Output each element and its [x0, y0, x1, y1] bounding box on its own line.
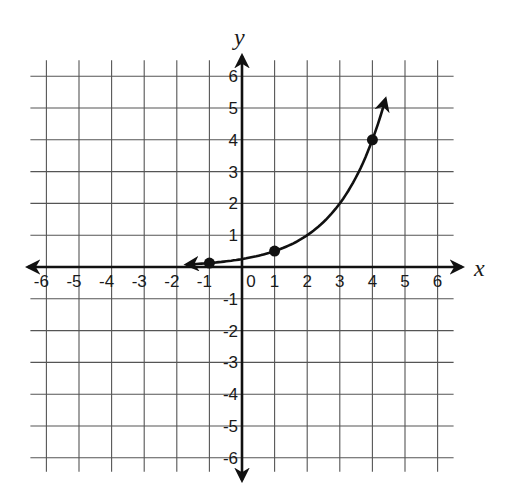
x-tick-label: 2	[302, 272, 311, 291]
data-point	[269, 246, 280, 257]
x-tick-label: -1	[197, 272, 212, 291]
function-curve	[187, 99, 386, 264]
x-tick-label: -3	[132, 272, 147, 291]
y-tick-label: 2	[229, 194, 238, 213]
x-tick-label: -4	[99, 272, 114, 291]
x-tick-label: -6	[34, 272, 49, 291]
x-tick-label: 5	[400, 272, 409, 291]
x-tick-label: -2	[164, 272, 179, 291]
x-tick-label: 1	[270, 272, 279, 291]
curve-path	[187, 99, 386, 264]
y-tick-label: -1	[223, 290, 238, 309]
y-tick-label: -5	[223, 417, 238, 436]
y-tick-label: -3	[223, 353, 238, 372]
y-tick-label: 1	[229, 226, 238, 245]
y-tick-label: 5	[229, 99, 238, 118]
y-tick-label: 4	[229, 131, 238, 150]
y-tick-label: -2	[223, 322, 238, 341]
data-point	[204, 258, 215, 269]
x-tick-label: 3	[335, 272, 344, 291]
data-point	[367, 134, 378, 145]
coordinate-plane: -6-5-4-3-2-10123456654321-1-2-3-4-5-6 x …	[0, 0, 509, 498]
x-tick-label: -5	[66, 272, 81, 291]
axes	[28, 56, 462, 480]
y-tick-label: 6	[229, 67, 238, 86]
y-tick-label: -6	[223, 449, 238, 468]
x-tick-label: 6	[433, 272, 442, 291]
x-axis-label: x	[473, 255, 485, 281]
y-tick-label: -4	[223, 385, 238, 404]
y-axis-label: y	[232, 24, 245, 50]
x-tick-label: 0	[246, 272, 255, 291]
y-tick-label: 3	[229, 163, 238, 182]
x-tick-label: 4	[368, 272, 377, 291]
